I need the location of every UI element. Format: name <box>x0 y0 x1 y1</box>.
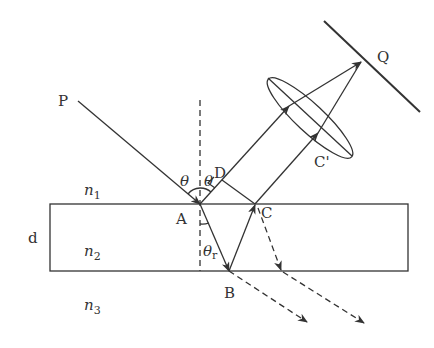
label-B: B <box>224 284 235 302</box>
label-n1: n1 <box>84 181 101 202</box>
theta-r-arc <box>200 223 209 224</box>
reflected-ray-AD <box>200 106 289 204</box>
lens-axis <box>268 78 352 156</box>
label-D: D <box>214 164 226 182</box>
label-A: A <box>175 210 187 228</box>
label-P: P <box>58 92 68 110</box>
label-n3: n3 <box>84 296 101 317</box>
label-theta-r: θr <box>203 242 218 262</box>
wavefront-DC <box>222 180 255 204</box>
thin-film-diagram: P Q A B C D C' d θ θ θr n1 n2 n3 <box>0 0 434 348</box>
label-C: C <box>261 204 272 222</box>
transmitted-ray-C <box>283 272 364 323</box>
internal-ray-BC <box>229 205 255 271</box>
transmitted-ray-B <box>229 271 307 322</box>
label-d: d <box>28 229 38 247</box>
film-slab <box>50 204 408 271</box>
theta-arc-incident <box>188 188 200 194</box>
label-n2: n2 <box>84 242 101 263</box>
label-theta-incident: θ <box>180 172 189 190</box>
emerging-ray-C <box>255 133 318 204</box>
label-C-prime: C' <box>314 153 330 171</box>
reflected-ray-to-Q <box>289 62 361 106</box>
emerging-ray-to-Q <box>318 62 361 133</box>
label-theta-reflected: θ <box>204 172 213 190</box>
label-Q: Q <box>377 48 389 66</box>
